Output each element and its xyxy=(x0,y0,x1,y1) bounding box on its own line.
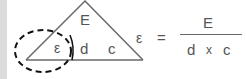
formula-numerator: E xyxy=(203,15,213,30)
formula-denominator-d: d xyxy=(187,42,195,57)
triangle-diagram xyxy=(0,0,246,79)
formula-equals: = xyxy=(157,30,166,45)
formula-denominator-c: c xyxy=(223,42,231,57)
triangle-top-label: E xyxy=(80,12,90,27)
triangle-bottom-label-c: c xyxy=(108,41,116,56)
dashed-highlight-ellipse xyxy=(15,30,71,72)
triangle-bottom-label-epsilon: ε xyxy=(54,41,60,55)
formula-lhs-epsilon: ε xyxy=(136,31,142,45)
triangle-bottom-label-d: d xyxy=(80,41,88,56)
formula-denominator-times: x xyxy=(206,44,212,56)
fraction-bar xyxy=(180,34,242,35)
